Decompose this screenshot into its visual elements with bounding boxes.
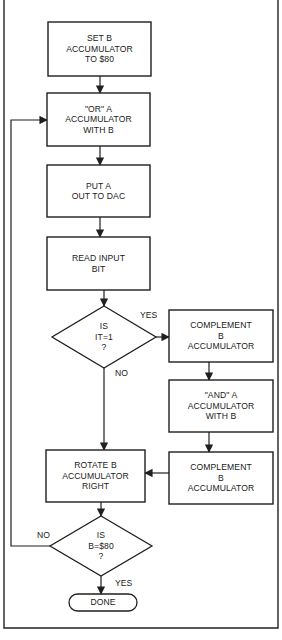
node-label-put_a: PUT A OUT TO DAC bbox=[47, 165, 150, 217]
edge-label-no: NO bbox=[115, 368, 128, 378]
edge-label-yes: YES bbox=[115, 578, 132, 588]
node-label-is_b_80: IS B=$80 ? bbox=[71, 516, 131, 576]
node-label-or_a: "OR" A ACCUMULATOR WITH B bbox=[47, 93, 150, 146]
node-label-is_it_1: IS IT=1 ? bbox=[74, 306, 134, 368]
node-label-comp_b_2: COMPLEMENT B ACCUMULATOR bbox=[169, 452, 273, 504]
edge-label-yes: YES bbox=[140, 310, 157, 320]
edge-is_b_80-to-or_a bbox=[11, 120, 50, 546]
node-label-and_a: "AND" A ACCUMULATOR WITH B bbox=[169, 380, 273, 432]
edge-label-no: NO bbox=[37, 530, 50, 540]
node-label-read_bit: READ INPUT BIT bbox=[47, 237, 150, 290]
node-label-comp_b_1: COMPLEMENT B ACCUMULATOR bbox=[169, 310, 273, 362]
node-label-rotate_b: ROTATE B ACCUMULATOR RIGHT bbox=[46, 450, 145, 502]
node-label-set_b: SET B ACCUMULATOR TO $80 bbox=[48, 22, 151, 76]
node-label-done: DONE bbox=[69, 594, 137, 611]
